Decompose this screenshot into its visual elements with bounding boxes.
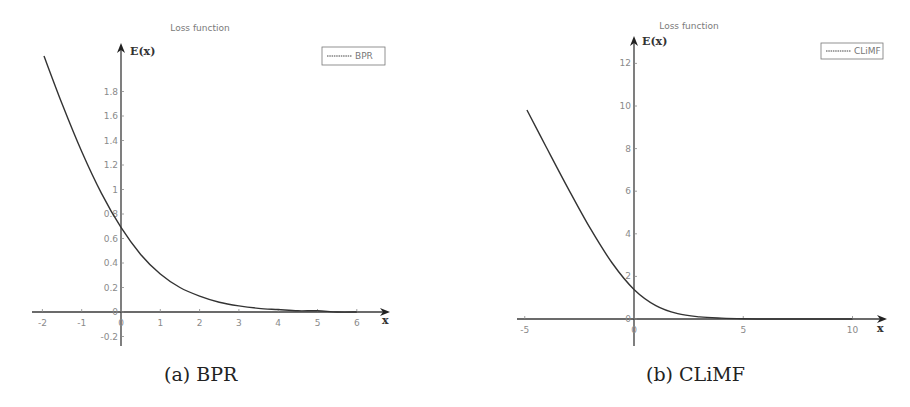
chart-title: Loss function — [659, 21, 718, 31]
legend-label: CLiMF — [854, 46, 881, 56]
x-axis-label: x — [877, 322, 884, 335]
x-tick-label: 10 — [847, 325, 859, 335]
y-tick-label: 10 — [620, 101, 632, 111]
x-tick-label: -5 — [520, 325, 529, 335]
y-tick-label: 12 — [620, 58, 631, 68]
y-axis-label: E(x) — [642, 35, 667, 48]
y-tick-label: 6 — [625, 186, 631, 196]
x-tick-label: 5 — [740, 325, 746, 335]
chart-climf-loss: Loss function-50510024681012xE(x)CLiMF — [0, 0, 910, 360]
x-tick-label: 0 — [631, 325, 637, 335]
series-line-climf — [527, 110, 853, 319]
y-tick-label: 8 — [625, 144, 631, 154]
figure: Loss function-2-10123456-0.200.20.40.60.… — [0, 0, 910, 407]
y-tick-label: 0 — [625, 314, 631, 324]
legend: CLiMF — [821, 43, 883, 59]
caption-b: (b) CLiMF — [646, 363, 745, 385]
y-tick-label: 4 — [625, 229, 631, 239]
caption-a: (a) BPR — [164, 363, 237, 385]
